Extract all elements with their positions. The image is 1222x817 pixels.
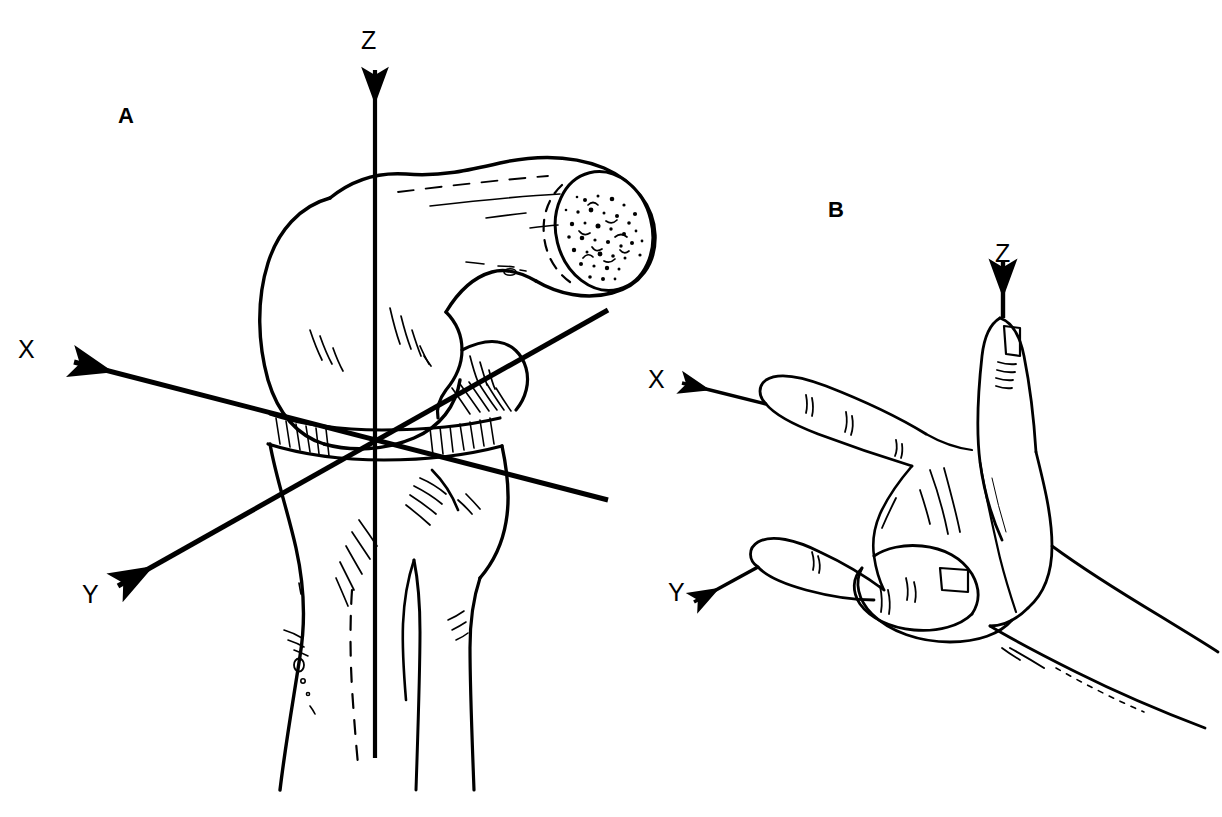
a-axis-y-line [118,310,608,586]
panel-a-axis-x-label: X [18,337,35,362]
panel-b-hand-drawing [751,318,1219,728]
figure-canvas: A B X Y Z X Y Z [0,0,1222,817]
panel-b-axis-z-label: Z [995,241,1010,266]
b-axis-x-line [682,383,766,404]
b-axis-y-line [694,567,758,602]
panel-b-axes [682,262,1003,602]
panel-a-label: A [118,105,134,127]
panel-b-label: B [828,199,844,221]
line-art-illustration [0,0,1222,817]
panel-a-axes [74,70,608,758]
panel-a-axis-z-label: Z [361,28,376,53]
panel-b-axis-y-label: Y [668,580,685,605]
panel-b-axis-x-label: X [648,367,665,392]
panel-a-axis-y-label: Y [82,582,99,607]
